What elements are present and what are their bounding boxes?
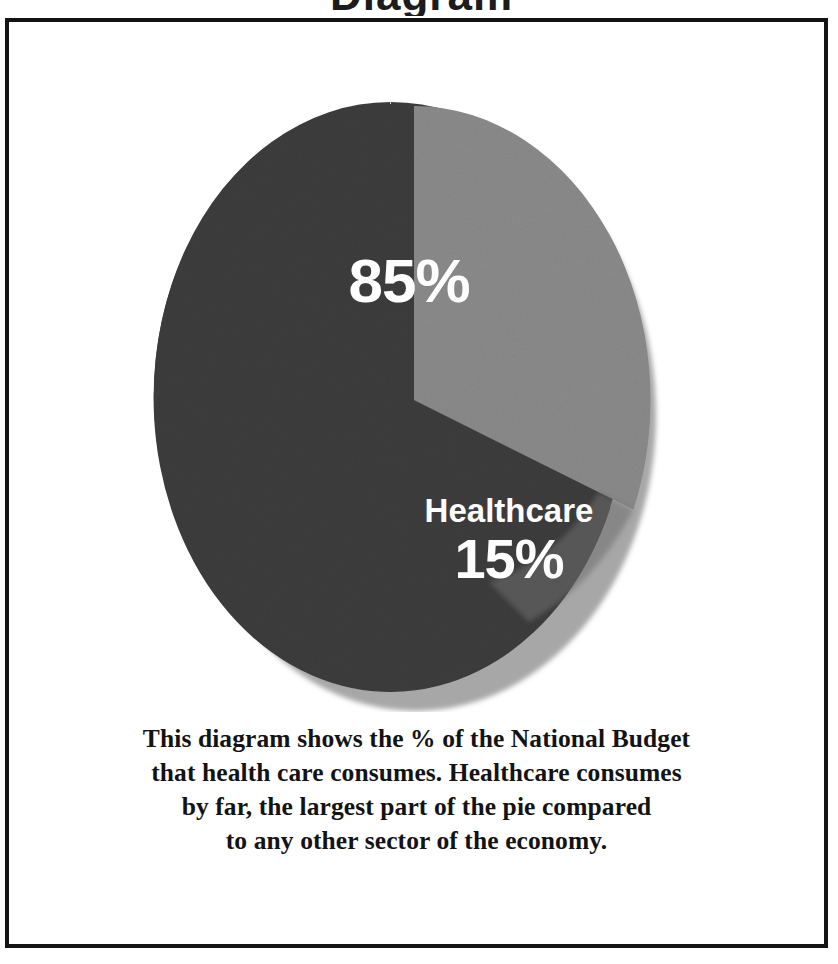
- pie-chart-svg: [9, 22, 824, 712]
- slice-label-healthcare-percent: 15%: [389, 531, 629, 587]
- diagram-caption: This diagram shows the % of the National…: [49, 722, 784, 859]
- caption-line-1: This diagram shows the % of the National…: [49, 722, 784, 756]
- slice-label-other-percent: 85%: [289, 250, 529, 312]
- cropped-title-text: Diagram: [330, 0, 513, 16]
- diagram-frame: 85% Healthcare 15% This diagram shows th…: [5, 18, 828, 948]
- cropped-title-fragment: Diagram: [0, 0, 838, 16]
- caption-line-3: by far, the largest part of the pie comp…: [49, 790, 784, 824]
- caption-line-2: that health care consumes. Healthcare co…: [49, 756, 784, 790]
- slice-label-healthcare-name: Healthcare: [389, 494, 629, 529]
- caption-line-4: to any other sector of the economy.: [49, 824, 784, 858]
- pie-chart-figure: 85% Healthcare 15%: [9, 22, 824, 712]
- slice-label-healthcare: Healthcare 15%: [389, 494, 629, 587]
